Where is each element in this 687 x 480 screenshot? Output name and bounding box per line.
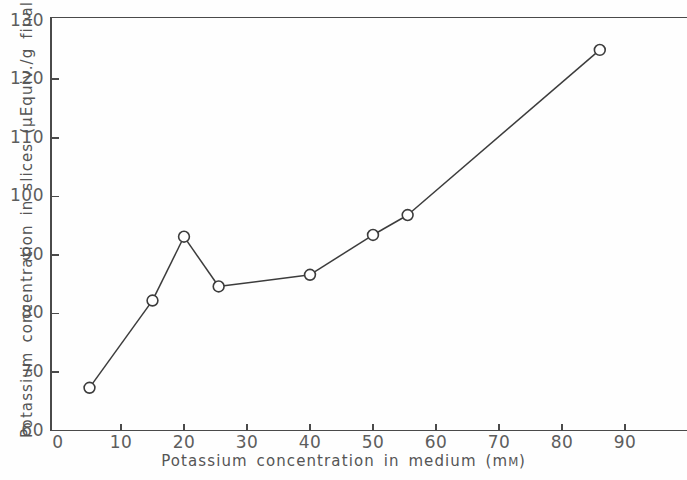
x-axis-title: Potassium concentration in medium (mM) [0,452,687,470]
data-segment-0 [93,305,150,383]
data-series-markers [84,45,605,394]
plot-area [0,0,687,480]
data-segment-3 [224,275,305,285]
data-point-6 [402,210,413,221]
data-segment-1 [155,242,182,296]
chart-figure: 60708090100110120130 0102030405060708090… [0,0,687,480]
data-segment-6 [412,53,596,211]
data-point-1 [147,295,158,306]
x-axis-title-text: Potassium concentration in medium (m [161,452,508,470]
data-segment-4 [315,238,369,272]
data-segment-5 [378,218,403,233]
data-point-3 [213,281,224,292]
data-point-2 [179,231,190,242]
x-axis-title-close: ) [519,452,526,470]
data-point-4 [305,269,316,280]
data-segment-2 [187,241,215,282]
x-axis-unit-smallcap: M [508,455,519,469]
y-axis-title: Potassium concentration in slices (μEqui… [18,0,36,438]
data-point-5 [368,230,379,241]
data-point-0 [84,382,95,393]
data-point-7 [594,45,605,56]
